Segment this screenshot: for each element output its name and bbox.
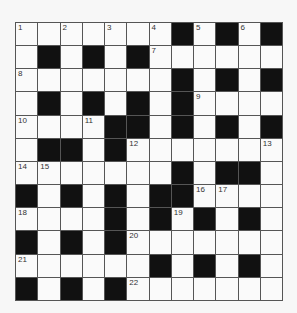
letter-cell[interactable]: 19 xyxy=(172,208,193,230)
letter-cell[interactable] xyxy=(83,23,104,45)
letter-cell[interactable] xyxy=(216,208,237,230)
letter-cell[interactable] xyxy=(83,69,104,91)
letter-cell[interactable] xyxy=(38,255,59,277)
letter-cell[interactable]: 18 xyxy=(16,208,37,230)
letter-cell[interactable]: 21 xyxy=(16,255,37,277)
letter-cell[interactable] xyxy=(239,231,260,253)
letter-cell[interactable] xyxy=(127,162,148,184)
letter-cell[interactable]: 2 xyxy=(61,23,82,45)
letter-cell[interactable] xyxy=(127,69,148,91)
letter-cell[interactable] xyxy=(38,208,59,230)
letter-cell[interactable] xyxy=(239,69,260,91)
letter-cell[interactable] xyxy=(261,46,282,68)
letter-cell[interactable] xyxy=(61,116,82,138)
letter-cell[interactable] xyxy=(61,162,82,184)
letter-cell[interactable]: 17 xyxy=(216,185,237,207)
letter-cell[interactable] xyxy=(16,92,37,114)
letter-cell[interactable]: 15 xyxy=(38,162,59,184)
letter-cell[interactable]: 10 xyxy=(16,116,37,138)
letter-cell[interactable] xyxy=(194,116,215,138)
letter-cell[interactable] xyxy=(150,92,171,114)
letter-cell[interactable] xyxy=(83,231,104,253)
letter-cell[interactable] xyxy=(38,278,59,300)
letter-cell[interactable]: 8 xyxy=(16,69,37,91)
letter-cell[interactable]: 20 xyxy=(127,231,148,253)
letter-cell[interactable] xyxy=(150,278,171,300)
letter-cell[interactable] xyxy=(105,255,126,277)
letter-cell[interactable] xyxy=(261,231,282,253)
letter-cell[interactable] xyxy=(239,185,260,207)
letter-cell[interactable] xyxy=(105,162,126,184)
letter-cell[interactable] xyxy=(150,116,171,138)
letter-cell[interactable]: 1 xyxy=(16,23,37,45)
letter-cell[interactable] xyxy=(194,46,215,68)
letter-cell[interactable] xyxy=(38,185,59,207)
letter-cell[interactable] xyxy=(239,46,260,68)
letter-cell[interactable] xyxy=(150,231,171,253)
letter-cell[interactable] xyxy=(83,162,104,184)
letter-cell[interactable] xyxy=(172,139,193,161)
letter-cell[interactable] xyxy=(194,139,215,161)
letter-cell[interactable] xyxy=(172,46,193,68)
letter-cell[interactable] xyxy=(105,46,126,68)
letter-cell[interactable] xyxy=(150,139,171,161)
letter-cell[interactable] xyxy=(194,278,215,300)
letter-cell[interactable]: 3 xyxy=(105,23,126,45)
letter-cell[interactable] xyxy=(105,69,126,91)
letter-cell[interactable] xyxy=(127,208,148,230)
letter-cell[interactable] xyxy=(127,185,148,207)
letter-cell[interactable]: 9 xyxy=(194,92,215,114)
letter-cell[interactable] xyxy=(239,92,260,114)
letter-cell[interactable]: 12 xyxy=(127,139,148,161)
letter-cell[interactable] xyxy=(261,278,282,300)
letter-cell[interactable] xyxy=(16,139,37,161)
letter-cell[interactable]: 11 xyxy=(83,116,104,138)
letter-cell[interactable] xyxy=(216,231,237,253)
letter-cell[interactable] xyxy=(261,92,282,114)
letter-cell[interactable]: 14 xyxy=(16,162,37,184)
letter-cell[interactable] xyxy=(61,208,82,230)
letter-cell[interactable] xyxy=(261,162,282,184)
letter-cell[interactable] xyxy=(216,46,237,68)
letter-cell[interactable] xyxy=(105,92,126,114)
letter-cell[interactable] xyxy=(83,139,104,161)
letter-cell[interactable] xyxy=(239,278,260,300)
letter-cell[interactable] xyxy=(61,46,82,68)
letter-cell[interactable] xyxy=(83,278,104,300)
letter-cell[interactable] xyxy=(38,23,59,45)
letter-cell[interactable] xyxy=(83,208,104,230)
letter-cell[interactable] xyxy=(83,255,104,277)
letter-cell[interactable] xyxy=(61,92,82,114)
letter-cell[interactable] xyxy=(216,92,237,114)
letter-cell[interactable] xyxy=(172,231,193,253)
letter-cell[interactable]: 4 xyxy=(150,23,171,45)
letter-cell[interactable]: 6 xyxy=(239,23,260,45)
letter-cell[interactable]: 16 xyxy=(194,185,215,207)
letter-cell[interactable]: 7 xyxy=(150,46,171,68)
letter-cell[interactable] xyxy=(61,69,82,91)
letter-cell[interactable] xyxy=(194,162,215,184)
letter-cell[interactable]: 13 xyxy=(261,139,282,161)
letter-cell[interactable] xyxy=(261,255,282,277)
letter-cell[interactable] xyxy=(83,185,104,207)
letter-cell[interactable] xyxy=(239,139,260,161)
letter-cell[interactable] xyxy=(172,255,193,277)
letter-cell[interactable] xyxy=(38,116,59,138)
letter-cell[interactable]: 22 xyxy=(127,278,148,300)
letter-cell[interactable] xyxy=(150,162,171,184)
letter-cell[interactable] xyxy=(172,278,193,300)
letter-cell[interactable] xyxy=(194,231,215,253)
letter-cell[interactable] xyxy=(38,231,59,253)
letter-cell[interactable] xyxy=(61,255,82,277)
letter-cell[interactable] xyxy=(16,46,37,68)
letter-cell[interactable] xyxy=(150,69,171,91)
letter-cell[interactable] xyxy=(127,23,148,45)
letter-cell[interactable]: 5 xyxy=(194,23,215,45)
letter-cell[interactable] xyxy=(261,185,282,207)
letter-cell[interactable] xyxy=(127,255,148,277)
letter-cell[interactable] xyxy=(216,139,237,161)
letter-cell[interactable] xyxy=(216,255,237,277)
letter-cell[interactable] xyxy=(261,208,282,230)
letter-cell[interactable] xyxy=(216,278,237,300)
letter-cell[interactable] xyxy=(239,116,260,138)
